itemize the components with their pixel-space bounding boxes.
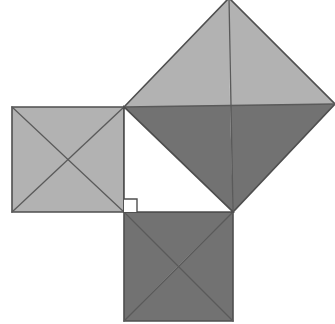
right-angle-marker [124, 199, 137, 212]
right-angle-square-fill [124, 199, 137, 212]
pythagorean-figure: Pythagorean theorem dissection diagram A… [0, 0, 335, 324]
hypotenuse-square-upper-right-triangle [229, 0, 335, 105]
square-on-horizontal-leg [124, 212, 233, 321]
square-on-vertical-leg [12, 107, 124, 212]
diagram-canvas: Pythagorean theorem dissection diagram A… [0, 0, 335, 324]
